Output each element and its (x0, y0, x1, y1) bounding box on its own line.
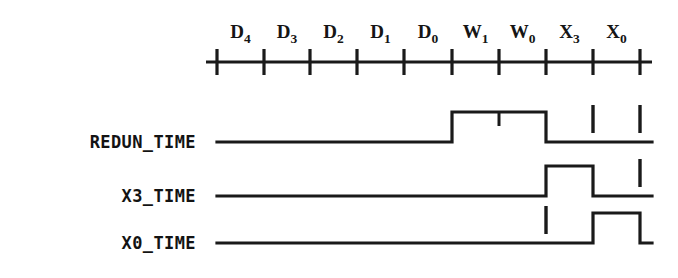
interval-label-D3: D3 (277, 21, 298, 46)
interval-label-X3: X3 (559, 21, 580, 46)
time-axis-group: D4D3D2D1D0W1W0X3X0 (206, 21, 652, 75)
waveform-x0-time (217, 213, 652, 243)
interval-label-D1: D1 (370, 21, 391, 46)
interval-label-D0: D0 (418, 21, 439, 46)
signal-x3-time (217, 159, 652, 196)
signal-label-x3-time: X3_TIME (122, 186, 196, 206)
signal-x0-time (217, 206, 652, 243)
interval-label-W0: W0 (510, 21, 536, 46)
interval-label-D4: D4 (230, 21, 251, 46)
waveform-x3-time (217, 166, 652, 196)
signal-label-redun-time: REDUN_TIME (90, 132, 196, 152)
time-axis-interval-labels: D4D3D2D1D0W1W0X3X0 (230, 21, 627, 46)
timing-diagram-canvas: D4D3D2D1D0W1W0X3X0 REDUN_TIMEX3_TIMEX0_T… (0, 0, 678, 278)
signal-redun-time (217, 105, 652, 142)
interval-label-X0: X0 (606, 21, 627, 46)
timing-diagram-figure: D4D3D2D1D0W1W0X3X0 REDUN_TIMEX3_TIMEX0_T… (0, 0, 678, 278)
signal-name-labels: REDUN_TIMEX3_TIMEX0_TIME (90, 132, 196, 253)
interval-label-W1: W1 (463, 21, 489, 46)
interval-label-D2: D2 (323, 21, 344, 46)
signal-label-x0-time: X0_TIME (122, 233, 196, 253)
waveform-redun-time (217, 112, 652, 142)
signal-waveforms (217, 105, 652, 243)
